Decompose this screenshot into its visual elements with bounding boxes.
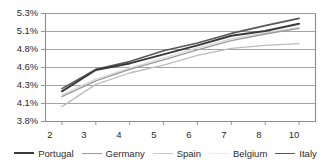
legend-swatch-spain	[153, 153, 173, 154]
y-axis-tick-label: 4.1%	[0, 98, 38, 108]
legend-label-spain: Spain	[177, 148, 201, 159]
legend-label-germany: Germany	[106, 148, 145, 159]
legend-label-italy: Italy	[299, 148, 316, 159]
legend-label-portugal: Portugal	[38, 148, 73, 159]
x-axis-tick-label: 6	[180, 130, 198, 140]
x-axis-tick-label: 7	[215, 130, 233, 140]
legend-label-belgium: Belgium	[233, 148, 267, 159]
line-chart: 5.3% 5.1% 4.8% 4.6% 4.3% 4.1% 3.8% 2 3 4…	[0, 0, 331, 166]
plot-area	[0, 0, 331, 166]
x-axis-tick-label: 2	[41, 130, 59, 140]
legend-item-italy: Italy	[275, 148, 316, 159]
y-axis-tick-label: 4.8%	[0, 44, 38, 54]
y-axis-tick-label: 4.6%	[0, 62, 38, 72]
legend-swatch-portugal	[14, 152, 34, 154]
legend-swatch-italy	[275, 153, 295, 154]
x-axis-tick-label: 8	[250, 130, 268, 140]
legend-swatch-belgium	[209, 153, 229, 154]
legend-item-portugal: Portugal	[14, 148, 73, 159]
legend-item-belgium: Belgium	[209, 148, 267, 159]
legend-swatch-germany	[82, 153, 102, 154]
x-axis-tick-label: 3	[75, 130, 93, 140]
y-axis-tick-label: 3.8%	[0, 116, 38, 126]
y-axis-tick-label: 5.1%	[0, 26, 38, 36]
x-axis-tick-label: 5	[145, 130, 163, 140]
legend-item-germany: Germany	[82, 148, 145, 159]
x-axis-tick-label: 4	[110, 130, 128, 140]
chart-legend: Portugal Germany Spain Belgium Italy	[0, 145, 331, 161]
x-axis-tick-label: 10	[285, 130, 303, 140]
y-axis-tick-label: 4.3%	[0, 80, 38, 90]
legend-item-spain: Spain	[153, 148, 201, 159]
y-axis-tick-label: 5.3%	[0, 8, 38, 18]
